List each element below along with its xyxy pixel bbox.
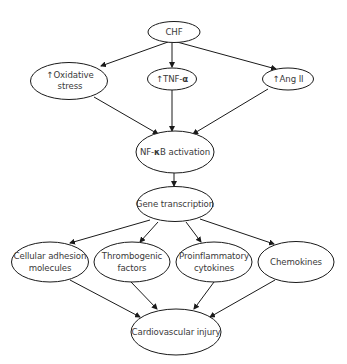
node-proinflammatory-line1: Proinflammatory [179,251,249,261]
node-injury-label: Cardiovascular injury [132,327,221,337]
node-tnf-label: ↑TNF-α [156,74,188,84]
edge-adhesion-to-injury [70,280,140,317]
edge-gene-to-chemokines [200,219,274,244]
edge-chf-to-oxidative [101,42,168,66]
node-angii-label: ↑Ang II [272,74,303,84]
node-chemokines: Chemokines [258,242,334,283]
edge-gene-to-thrombogenic [140,222,158,242]
flowchart-diagram: CHF ↑Oxidative stress ↑TNF-α ↑Ang II NF-… [0,0,347,364]
node-chemokines-label: Chemokines [270,257,323,267]
node-nfkb-activation: NF-κB activation [136,131,214,173]
node-oxidative-stress: ↑Oxidative stress [31,63,108,100]
edge-chemokines-to-injury [210,280,275,317]
node-thrombogenic-line2: factors [118,263,148,273]
node-proinflammatory-line2: cytokines [194,263,235,273]
node-gene-label: Gene transcription [136,199,214,209]
node-chf: CHF [148,22,200,43]
edge-thrombogenic-to-injury [131,282,157,309]
edge-angii-to-nfkb [193,89,268,134]
node-proinflammatory-cytokines: Proinflammatory cytokines [176,242,252,282]
node-cellular-adhesion: Cellular adhesion molecules [12,242,89,282]
node-cardiovascular-injury: Cardiovascular injury [131,309,221,355]
edge-proinflammatory-to-injury [194,282,214,309]
node-thrombogenic-shape [94,242,170,282]
node-adhesion-line1: Cellular adhesion [14,251,87,261]
edge-gene-to-proinflammatory [186,222,201,242]
node-gene-transcription: Gene transcription [136,187,214,222]
up-arrow-icon: ↑ [46,70,53,80]
node-thrombogenic-line1: Thrombogenic [101,251,163,261]
node-ang-ii: ↑Ang II [263,68,314,90]
node-adhesion-line2: molecules [29,263,72,273]
up-arrow-icon: ↑ [156,74,163,84]
node-oxidative-line1: ↑Oxidative [46,70,93,80]
up-arrow-icon: ↑ [272,74,279,84]
node-chf-label: CHF [165,27,182,37]
node-adhesion-shape [12,242,89,282]
node-oxidative-line2: stress [58,81,83,91]
edge-chf-to-angii [177,42,276,69]
edge-gene-to-adhesion [70,220,150,243]
node-thrombogenic-factors: Thrombogenic factors [94,242,170,282]
node-nfkb-label: NF-κB activation [140,147,210,157]
node-proinflammatory-shape [176,242,252,282]
edge-oxidative-to-nfkb [94,97,158,134]
node-tnf-alpha: ↑TNF-α [148,68,197,90]
